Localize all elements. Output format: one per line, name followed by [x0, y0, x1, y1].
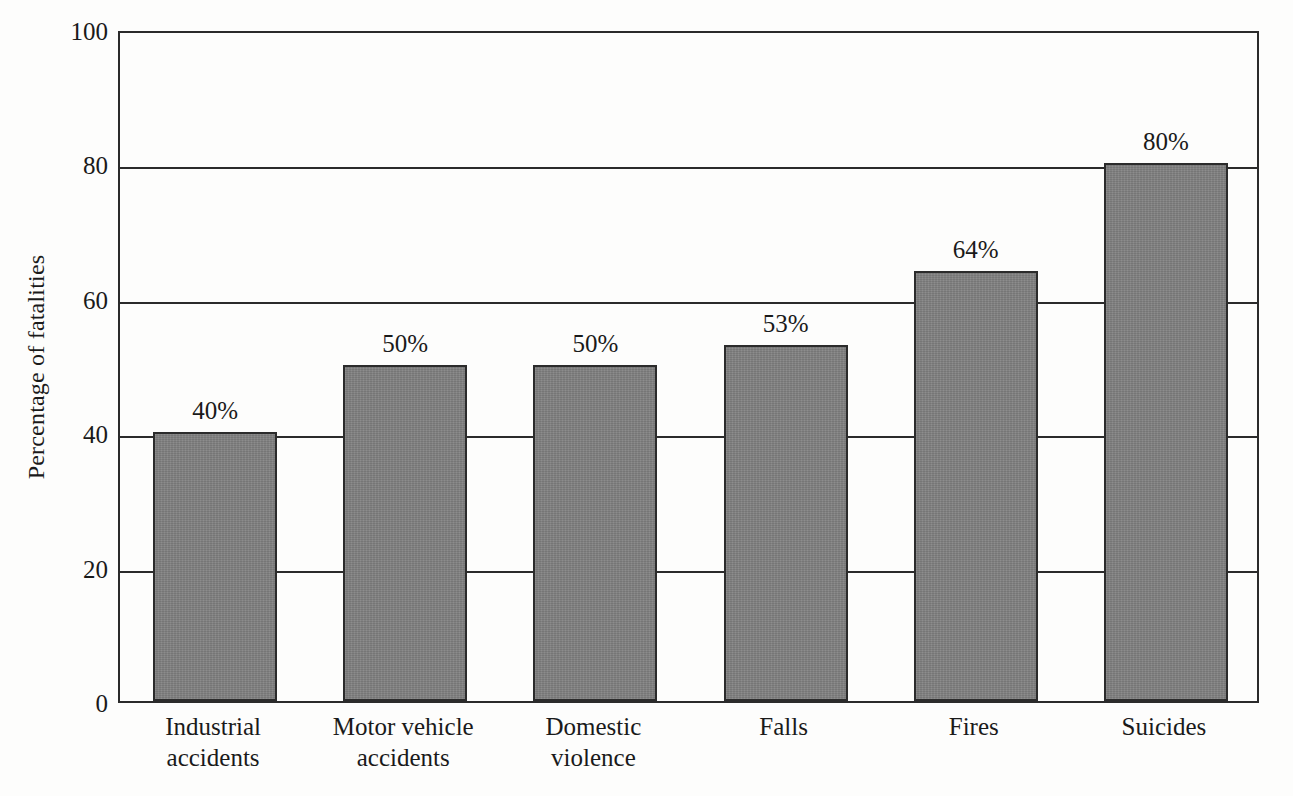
bar[interactable]: [533, 365, 657, 701]
y-tick-label-20: 20: [38, 556, 108, 581]
bar-slot: 50%: [343, 33, 467, 701]
x-label-motor-vehicle-accidents: Motor vehicleaccidents: [308, 712, 498, 773]
bar[interactable]: [724, 345, 848, 701]
plot-area: 40%50%50%53%64%80%: [118, 31, 1259, 703]
y-tick-label-100: 100: [38, 19, 108, 44]
plot-inner: 40%50%50%53%64%80%: [120, 33, 1257, 701]
bar-slot: 40%: [153, 33, 277, 701]
x-label-line: Fires: [879, 712, 1069, 743]
x-label-line: accidents: [308, 743, 498, 774]
x-label-line: violence: [498, 743, 688, 774]
x-label-line: Motor vehicle: [308, 712, 498, 743]
y-tick-label-40: 40: [38, 422, 108, 447]
bar-value-label: 40%: [192, 398, 238, 423]
gridline-60: [120, 302, 1257, 304]
bar[interactable]: [914, 271, 1038, 701]
x-label-line: Suicides: [1069, 712, 1259, 743]
x-label-line: accidents: [118, 743, 308, 774]
x-label-industrial-accidents: Industrialaccidents: [118, 712, 308, 773]
bar-value-label: 64%: [953, 237, 999, 262]
x-label-falls: Falls: [689, 712, 879, 743]
gridline-40: [120, 436, 1257, 438]
y-tick-label-0: 0: [38, 691, 108, 716]
bar-slot: 50%: [533, 33, 657, 701]
bar-slot: 53%: [724, 33, 848, 701]
x-label-line: Falls: [689, 712, 879, 743]
bar[interactable]: [343, 365, 467, 701]
gridline-80: [120, 167, 1257, 169]
bar-chart-figure: Percentage of fatalities 020406080100 40…: [0, 0, 1293, 796]
bar-value-label: 50%: [382, 331, 428, 356]
bar-slot: 80%: [1104, 33, 1228, 701]
bar-value-label: 50%: [572, 331, 618, 356]
bar-value-label: 53%: [763, 311, 809, 336]
gridline-20: [120, 571, 1257, 573]
x-label-suicides: Suicides: [1069, 712, 1259, 743]
y-tick-label-80: 80: [38, 153, 108, 178]
x-label-fires: Fires: [879, 712, 1069, 743]
bar-slot: 64%: [914, 33, 1038, 701]
y-tick-label-60: 60: [38, 287, 108, 312]
bar[interactable]: [153, 432, 277, 701]
bar[interactable]: [1104, 163, 1228, 701]
bar-value-label: 80%: [1143, 129, 1189, 154]
x-label-line: Domestic: [498, 712, 688, 743]
x-axis-category-labels: IndustrialaccidentsMotor vehicleaccident…: [118, 712, 1259, 796]
x-label-line: Industrial: [118, 712, 308, 743]
x-label-domestic-violence: Domesticviolence: [498, 712, 688, 773]
y-axis-tick-labels: 020406080100: [30, 31, 108, 703]
